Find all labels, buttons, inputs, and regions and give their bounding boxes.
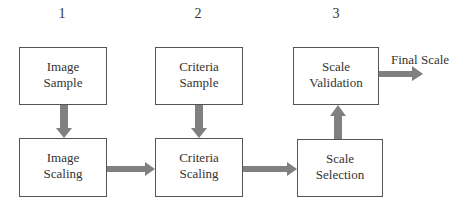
arrow-right-2 [243, 162, 297, 176]
arrow-up-1 [330, 105, 346, 139]
connector-arrows [0, 0, 458, 209]
arrow-down-1 [56, 105, 72, 138]
arrow-right-final [379, 66, 423, 81]
arrow-down-2 [191, 105, 207, 138]
arrow-right-1 [107, 162, 155, 176]
